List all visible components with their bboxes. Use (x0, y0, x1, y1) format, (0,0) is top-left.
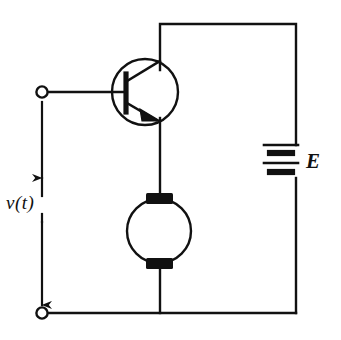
circuit-diagram-figure: v(t) E (0, 0, 341, 340)
input-terminal-top[interactable] (36, 86, 47, 97)
schematic-canvas (0, 0, 341, 340)
supply-voltage-label: E (306, 151, 320, 172)
motor-envelope-circle (127, 199, 191, 263)
motor-brush-top (146, 193, 173, 204)
wire-collector-to-supply-top (160, 24, 296, 145)
transistor-collector-lead (127, 61, 160, 81)
transistor-emitter-arrowhead (140, 109, 160, 121)
motor-brush-bottom (146, 258, 173, 269)
input-terminal-bottom[interactable] (36, 307, 47, 318)
input-voltage-label: v(t) (6, 193, 34, 212)
